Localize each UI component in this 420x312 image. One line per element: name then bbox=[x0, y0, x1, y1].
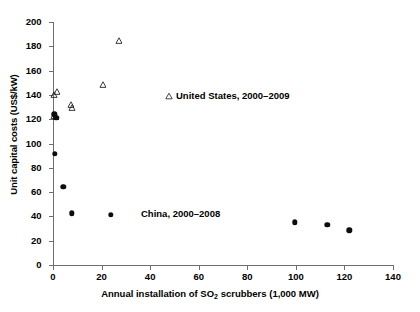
x-tick-label: 140 bbox=[385, 271, 401, 282]
y-tick: 20 bbox=[49, 241, 54, 242]
y-tick-label: 180 bbox=[26, 40, 42, 51]
y-tick-label: 60 bbox=[31, 186, 42, 197]
y-tick: 180 bbox=[49, 46, 54, 47]
y-tick: 160 bbox=[49, 71, 54, 72]
data-point bbox=[292, 220, 297, 225]
x-tick-label: 0 bbox=[50, 271, 55, 282]
y-tick: 80 bbox=[49, 168, 54, 169]
y-tick-label: 100 bbox=[26, 138, 42, 149]
y-tick-label: 120 bbox=[26, 113, 42, 124]
y-tick-label: 0 bbox=[36, 259, 41, 270]
data-point bbox=[108, 212, 113, 217]
x-axis-title-subscript: 2 bbox=[214, 293, 218, 300]
y-tick-label: 40 bbox=[31, 210, 42, 221]
y-tick-label: 200 bbox=[26, 16, 42, 27]
x-tick bbox=[344, 265, 345, 270]
data-point bbox=[115, 30, 123, 48]
x-tick-label: 40 bbox=[145, 271, 156, 282]
x-tick-label: 80 bbox=[242, 271, 253, 282]
x-tick-label: 60 bbox=[193, 271, 204, 282]
x-tick bbox=[199, 265, 200, 270]
x-tick bbox=[150, 265, 151, 270]
y-axis-title-text: Unit capital costs (US$/kW) bbox=[8, 74, 19, 194]
scatter-chart: Unit capital costs (US$/kW) 020406080100… bbox=[0, 0, 420, 312]
y-tick-label: 80 bbox=[31, 162, 42, 173]
x-axis-line bbox=[53, 265, 393, 266]
series-label-china: China, 2000–2008 bbox=[141, 208, 220, 219]
open-triangle-icon bbox=[165, 92, 173, 100]
data-point bbox=[347, 228, 352, 233]
x-tick-label: 100 bbox=[288, 271, 304, 282]
data-point bbox=[99, 74, 107, 92]
y-tick-label: 160 bbox=[26, 65, 42, 76]
x-tick bbox=[53, 265, 54, 270]
y-tick-label: 140 bbox=[26, 89, 42, 100]
y-tick: 60 bbox=[49, 192, 54, 193]
data-point bbox=[69, 97, 77, 115]
plot-area: 020406080100120140160180200 020406080100… bbox=[53, 22, 393, 265]
series-label-us-text: United States, 2000–2009 bbox=[176, 90, 290, 101]
data-point bbox=[325, 222, 330, 227]
x-tick bbox=[393, 265, 394, 270]
data-point bbox=[53, 81, 61, 99]
x-axis-title-prefix: Annual installation of SO bbox=[101, 288, 214, 299]
series-label-united-states: United States, 2000–2009 bbox=[165, 90, 290, 101]
x-tick bbox=[247, 265, 248, 270]
x-axis-title: Annual installation of SO2 scrubbers (1,… bbox=[0, 288, 420, 299]
y-tick: 200 bbox=[49, 22, 54, 23]
y-tick-label: 20 bbox=[31, 235, 42, 246]
data-point bbox=[69, 211, 74, 216]
data-point bbox=[60, 184, 65, 189]
y-tick: 40 bbox=[49, 216, 54, 217]
y-tick: 100 bbox=[49, 144, 54, 145]
data-point bbox=[52, 151, 57, 156]
y-axis-line bbox=[53, 22, 54, 265]
x-tick-label: 120 bbox=[336, 271, 352, 282]
series-label-china-text: China, 2000–2008 bbox=[141, 208, 220, 219]
x-tick-label: 20 bbox=[96, 271, 107, 282]
y-axis-title: Unit capital costs (US$/kW) bbox=[2, 0, 24, 268]
x-tick bbox=[102, 265, 103, 270]
x-tick bbox=[296, 265, 297, 270]
x-axis-title-suffix: scrubbers (1,000 MW) bbox=[218, 288, 319, 299]
